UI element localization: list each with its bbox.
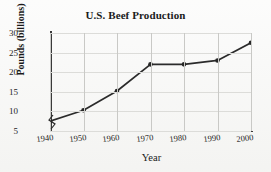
y-tick-label-15: 15 — [0, 88, 18, 97]
y-axis-break-icon — [46, 114, 58, 130]
x-axis-title: Year — [50, 152, 253, 163]
chart-title: U.S. Beef Production — [0, 9, 271, 21]
gridline-v-1990 — [218, 33, 219, 131]
gridline-v-1970 — [151, 33, 152, 131]
plot-area — [50, 33, 251, 131]
x-tick-label-1960: 1960 — [102, 133, 120, 144]
y-tick-label-5: 5 — [0, 127, 18, 136]
x-tick-label-1940: 1940 — [36, 133, 54, 144]
y-tick-label-10: 10 — [0, 107, 18, 116]
x-tick-label-1950: 1950 — [69, 133, 87, 144]
gridline-v-2000 — [251, 33, 252, 131]
y-tick-label-30: 30 — [0, 29, 18, 38]
x-tick-label-1990: 1990 — [203, 133, 221, 144]
gridline-v-1980 — [184, 33, 185, 131]
gridline-v-1950 — [84, 33, 85, 131]
x-tick-label-1980: 1980 — [169, 133, 187, 144]
y-tick-label-20: 20 — [0, 68, 18, 77]
x-tick-label-1970: 1970 — [136, 133, 154, 144]
gridline-v-1960 — [117, 33, 118, 131]
x-tick-label-2000: 2000 — [236, 133, 254, 144]
chart-figure: U.S. Beef Production Pounds (billions) 3… — [0, 0, 271, 172]
y-tick-label-25: 25 — [0, 49, 18, 58]
